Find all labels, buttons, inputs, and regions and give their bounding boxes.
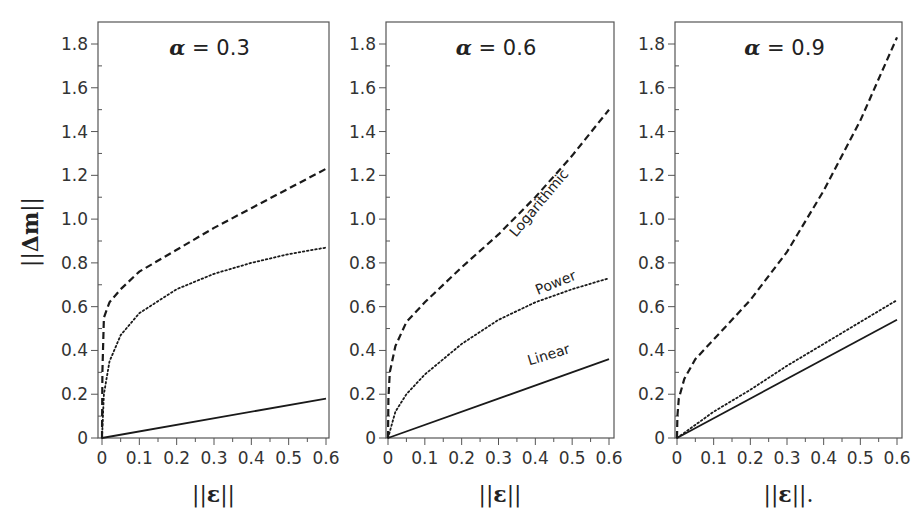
x-tick-label: 0 [672, 448, 683, 468]
y-tick-label: 0.8 [349, 253, 376, 273]
y-tick-label: 0.6 [638, 297, 665, 317]
panel-title: α = 0.6 [456, 35, 537, 60]
x-tick-label: 0 [97, 448, 108, 468]
curve-power [677, 300, 897, 438]
y-tick-label: 1.2 [349, 165, 376, 185]
curve-power [102, 248, 326, 438]
curve-logarithmic [102, 169, 326, 438]
curve-linear [102, 399, 326, 438]
curve-label-power: Power [533, 267, 578, 298]
x-tick-label: 0.1 [411, 448, 438, 468]
y-tick-label: 1.6 [349, 78, 376, 98]
y-tick-label: 0.4 [61, 340, 88, 360]
panels: 00.20.40.60.81.01.21.41.61.800.10.20.30.… [61, 22, 911, 508]
x-tick-label: 0.2 [737, 448, 764, 468]
plot-frame [675, 22, 902, 438]
x-tick-label: 0.5 [559, 448, 586, 468]
y-tick-label: 1.4 [638, 122, 665, 142]
curve-linear [388, 359, 609, 438]
chart-panel-alpha-0.9: 00.20.40.60.81.01.21.41.61.800.10.20.30.… [638, 22, 911, 508]
y-tick-label: 1.0 [61, 209, 88, 229]
x-tick-label: 0.6 [312, 448, 339, 468]
y-tick-label: 1.8 [638, 34, 665, 54]
curve-power [388, 278, 609, 438]
y-tick-label: 0.2 [349, 384, 376, 404]
y-tick-label: 1.0 [638, 209, 665, 229]
x-tick-label: 0.3 [773, 448, 800, 468]
y-tick-label: 1.8 [61, 34, 88, 54]
y-axis-label: ||Δm|| [17, 197, 44, 267]
y-tick-label: 1.6 [638, 78, 665, 98]
y-tick-label: 0.2 [61, 384, 88, 404]
y-tick-label: 0.4 [638, 340, 665, 360]
x-tick-label: 0.3 [200, 448, 227, 468]
y-tick-label: 0.6 [61, 297, 88, 317]
y-tick-label: 0.4 [349, 340, 376, 360]
y-tick-label: 0.8 [638, 253, 665, 273]
y-tick-label: 1.4 [61, 122, 88, 142]
x-tick-label: 0.4 [810, 448, 837, 468]
x-tick-label: 0.5 [847, 448, 874, 468]
chart-panel-alpha-0.3: 00.20.40.60.81.01.21.41.61.800.10.20.30.… [61, 22, 340, 508]
curve-linear [677, 320, 897, 438]
x-axis-label: ||ε||. [763, 481, 813, 508]
y-tick-label: 1.8 [349, 34, 376, 54]
figure: 00.20.40.60.81.01.21.41.61.800.10.20.30.… [0, 0, 924, 523]
x-axis-label: ||ε|| [478, 481, 521, 508]
y-tick-label: 1.2 [638, 165, 665, 185]
x-tick-label: 0.4 [238, 448, 265, 468]
x-tick-label: 0.3 [485, 448, 512, 468]
y-tick-label: 1.4 [349, 122, 376, 142]
plot-frame [386, 22, 614, 438]
x-tick-label: 0.5 [275, 448, 302, 468]
x-axis-label: ||ε|| [192, 481, 235, 508]
y-tick-label: 0 [77, 428, 88, 448]
panel-title: α = 0.9 [744, 35, 825, 60]
x-tick-label: 0.6 [595, 448, 622, 468]
curve-logarithmic [388, 110, 609, 438]
curve-label-logarithmic: Logarithmic [506, 166, 571, 240]
y-tick-label: 1.2 [61, 165, 88, 185]
y-tick-label: 0.6 [349, 297, 376, 317]
y-tick-label: 0 [365, 428, 376, 448]
x-tick-label: 0 [383, 448, 394, 468]
curve-label-linear: Linear [525, 340, 572, 368]
x-tick-label: 0.1 [700, 448, 727, 468]
y-tick-label: 1.0 [349, 209, 376, 229]
y-tick-label: 0 [654, 428, 665, 448]
chart-panel-alpha-0.6: 00.20.40.60.81.01.21.41.61.800.10.20.30.… [349, 22, 623, 508]
x-tick-label: 0.6 [883, 448, 910, 468]
y-tick-label: 0.8 [61, 253, 88, 273]
y-tick-label: 0.2 [638, 384, 665, 404]
x-tick-label: 0.2 [448, 448, 475, 468]
x-tick-label: 0.4 [522, 448, 549, 468]
x-tick-label: 0.2 [163, 448, 190, 468]
panel-title: α = 0.3 [169, 35, 250, 60]
y-tick-label: 1.6 [61, 78, 88, 98]
x-tick-label: 0.1 [126, 448, 153, 468]
plot-frame [98, 22, 329, 438]
